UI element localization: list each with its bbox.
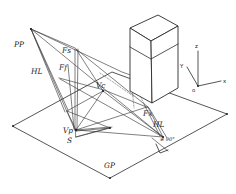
label-vanishing-side: Fs	[61, 46, 71, 55]
label-vanishing-front: Ff	[58, 63, 68, 72]
label-angle-note: ≠ 90°	[160, 136, 175, 142]
label-axis-z: z	[195, 43, 198, 49]
label-vanishing-x: Fx	[142, 109, 153, 118]
label-picture-plane: PP	[13, 40, 25, 49]
label-station-point: S	[67, 136, 72, 145]
label-layer: PP HL Fs Ff Vc Vp S Fx HL GP ≠ 90° z Y x…	[0, 0, 236, 194]
label-vanishing-front-group: Ff	[58, 63, 68, 72]
label-vanishing-center: Vc	[96, 81, 105, 90]
label-horizon-left: HL	[30, 67, 42, 76]
label-axis-origin: o	[192, 87, 195, 93]
label-axis-x: x	[223, 78, 227, 84]
label-vanishing-side-group: Fs	[61, 46, 71, 55]
label-ground-plane: GP	[104, 161, 116, 170]
label-horizon-right: HL	[152, 120, 164, 129]
label-vanishing-point: Vp	[63, 126, 73, 135]
label-axis-y: Y	[179, 63, 184, 69]
perspective-diagram: PP HL Fs Ff Vc Vp S Fx HL GP ≠ 90° z Y x…	[0, 0, 236, 194]
